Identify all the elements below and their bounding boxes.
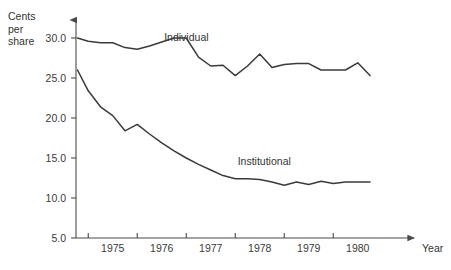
x-tick-label: 1977 [199, 242, 223, 254]
series-label-individual: Individual [164, 31, 208, 43]
series-labels: IndividualInstitutional [164, 31, 291, 167]
x-tick-label: 1980 [346, 242, 370, 254]
x-axis-ticks: 197519761977197819791980 [88, 233, 369, 254]
y-tick-label: 10.0 [46, 192, 67, 204]
x-tick-label: 1975 [101, 242, 125, 254]
y-tick-label: 25.0 [46, 72, 67, 84]
x-tick-label: 1979 [297, 242, 321, 254]
y-tick-label: 30.0 [46, 32, 67, 44]
x-tick-label: 1976 [150, 242, 174, 254]
y-tick-label: 15.0 [46, 152, 67, 164]
x-axis-title: Year [422, 242, 444, 254]
series-line-institutional [77, 70, 370, 185]
y-axis-ticks: 30.025.020.015.010.05.0 [46, 32, 76, 244]
y-tick-label: 20.0 [46, 112, 67, 124]
x-tick-label: 1978 [248, 242, 272, 254]
chart-canvas: 30.025.020.015.010.05.0 1975197619771978… [0, 0, 451, 270]
series-lines [77, 38, 370, 185]
series-label-institutional: Institutional [238, 155, 291, 167]
y-tick-label: 5.0 [51, 232, 66, 244]
series-line-individual [77, 38, 370, 76]
line-chart: Cents per share 30.025.020.015.010.05.0 … [0, 0, 451, 270]
